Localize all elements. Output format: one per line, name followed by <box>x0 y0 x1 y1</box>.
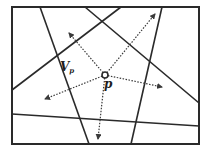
ray-up-right-arrow <box>105 14 155 75</box>
point-label-p: p <box>104 78 112 90</box>
region-label-vp: Vp <box>60 61 74 74</box>
ray-right-arrow <box>105 75 162 87</box>
ray-up-left-arrow <box>69 33 105 75</box>
arrangement-diagram <box>0 0 210 152</box>
region-label-subscript: p <box>69 66 74 75</box>
region-label-main: V <box>60 60 69 74</box>
ray-left-arrow <box>45 75 105 99</box>
line-a <box>40 7 89 144</box>
line-e <box>12 114 199 126</box>
